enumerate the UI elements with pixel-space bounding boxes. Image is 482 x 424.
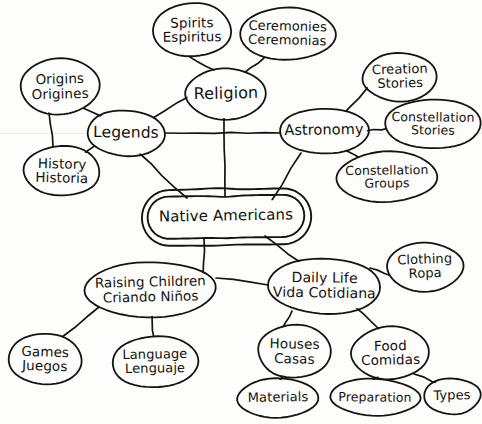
node-constellation-stories[interactable]: Constellation Stories — [385, 98, 482, 149]
edge-religion-to-native-americans — [224, 118, 225, 196]
edge-stroke — [49, 113, 53, 147]
edge-stroke — [190, 57, 214, 70]
node-label-ceremonies: Ceremonies Ceremonias — [248, 19, 327, 48]
concept-map-canvas: Spirits EspiritusCeremonies CeremoniasOr… — [0, 0, 482, 424]
node-food[interactable]: Food Comidas — [352, 326, 430, 379]
node-label-constellation-groups: Constellation Groups — [345, 163, 429, 190]
node-types[interactable]: Types — [424, 377, 481, 414]
node-label-preparation: Preparation — [338, 390, 411, 404]
node-label-houses: Houses Casas — [269, 336, 319, 365]
node-label-religion: Religion — [194, 85, 259, 103]
node-label-creation-stories: Creation Stories — [372, 62, 428, 90]
node-history[interactable]: History Historia — [23, 145, 100, 197]
node-ceremonies[interactable]: Ceremonies Ceremonias — [239, 7, 335, 61]
node-native-americans[interactable]: Native Americans — [148, 195, 305, 239]
node-label-types: Types — [433, 388, 470, 402]
edge-stroke — [224, 118, 225, 196]
node-label-clothing: Clothing Ropa — [397, 252, 453, 281]
edge-spirits-to-religion — [190, 57, 214, 70]
node-label-food: Food Comidas — [361, 338, 421, 367]
node-label-native-americans: Native Americans — [159, 208, 293, 226]
edge-raising-children-to-daily-life — [216, 278, 268, 285]
node-label-spirits: Spirits Espiritus — [162, 15, 221, 44]
node-materials[interactable]: Materials — [237, 378, 320, 417]
node-raising-children[interactable]: Raising Children Criando Niños — [84, 261, 216, 319]
node-label-language: Language Lenguaje — [122, 347, 187, 375]
node-spirits[interactable]: Spirits Espiritus — [153, 3, 232, 58]
edge-stroke — [165, 132, 281, 133]
node-clothing[interactable]: Clothing Ropa — [386, 242, 464, 293]
node-language[interactable]: Language Lenguaje — [112, 335, 199, 388]
node-religion[interactable]: Religion — [186, 68, 267, 119]
node-games[interactable]: Games Juegos — [8, 332, 81, 386]
node-label-history: History Historia — [35, 156, 89, 185]
edge-stroke — [216, 278, 268, 285]
node-houses[interactable]: Houses Casas — [257, 324, 331, 378]
node-label-astronomy: Astronomy — [284, 122, 364, 138]
node-label-daily-life: Daily Life Vida Cotidiana — [273, 270, 376, 301]
edge-legends-to-astronomy — [165, 132, 281, 133]
node-label-constellation-stories: Constellation Stories — [391, 110, 475, 137]
node-daily-life[interactable]: Daily Life Vida Cotidiana — [268, 257, 382, 315]
edge-origins-to-history — [49, 113, 53, 147]
node-label-legends: Legends — [93, 124, 159, 141]
node-origins[interactable]: Origins Origines — [19, 58, 100, 115]
node-label-raising-children: Raising Children Criando Niños — [95, 274, 207, 305]
edge-raising-children-to-language — [152, 315, 154, 338]
node-creation-stories[interactable]: Creation Stories — [362, 52, 437, 102]
node-astronomy[interactable]: Astronomy — [280, 107, 369, 154]
node-label-origins: Origins Origines — [31, 71, 89, 101]
node-label-games: Games Juegos — [21, 344, 69, 373]
node-preparation[interactable]: Preparation — [330, 378, 420, 415]
node-constellation-groups[interactable]: Constellation Groups — [337, 151, 438, 202]
node-label-materials: Materials — [248, 390, 309, 404]
edge-stroke — [152, 315, 154, 338]
